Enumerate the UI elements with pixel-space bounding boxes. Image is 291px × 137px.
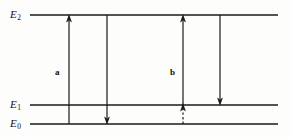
energy-level-label-E0: E0 [10,118,20,129]
transition-arrow-emission-down-to-E0 [104,15,110,125]
transition-arrow-pump-up-from-E1 [180,14,186,105]
energy-level-diagram: E2 E1 E0 a b [0,0,291,137]
energy-level-symbol-E0: E [10,117,17,129]
energy-level-label-E2: E2 [10,9,20,20]
transition-arrow-emission-down-to-E1 [217,15,223,106]
transition-label-b: b [170,68,175,77]
transition-arrow-absorption-up [66,14,72,124]
energy-level-label-E1: E1 [10,99,20,110]
energy-level-symbol-E2: E [10,8,17,20]
energy-level-subscript-E1: 1 [17,103,21,112]
transition-label-a: a [55,68,60,77]
energy-level-subscript-E0: 0 [17,122,21,131]
energy-level-lines [30,15,278,124]
energy-level-subscript-E2: 2 [17,13,21,22]
transition-arrows [66,14,223,125]
transition-arrow-relax-up-E0-to-E1 [180,103,186,124]
diagram-canvas [0,0,291,137]
energy-level-symbol-E1: E [10,98,17,110]
